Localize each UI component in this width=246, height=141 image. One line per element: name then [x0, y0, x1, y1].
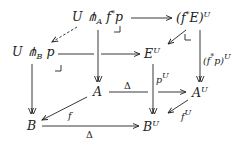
node-A-U: AU [192, 86, 208, 100]
node-U-pitchfork-A-fstar-p: U ⋔A f*p [72, 10, 123, 26]
label-fstarp-U: (f*p)U [203, 53, 231, 66]
node-U-pitchfork-B-p: U ⋔B p [12, 46, 54, 61]
pullback-corner-1 [114, 26, 120, 32]
node-B: B [27, 120, 36, 133]
label-f: f [68, 111, 72, 121]
arrow-top-right-diagonal [168, 30, 186, 44]
arrow-dashed-diagonal [52, 27, 77, 42]
label-p-U: pU [156, 72, 169, 85]
node-A: A [93, 86, 102, 99]
arrow-f [42, 97, 87, 120]
pullback-corner-2 [55, 65, 61, 71]
node-E-U: EU [144, 47, 160, 61]
pullback-corner-3 [185, 34, 191, 40]
label-delta-bottom: Δ [86, 130, 93, 140]
label-delta-top: Δ [124, 81, 131, 91]
node-B-U: BU [143, 120, 159, 134]
label-f-U: fU [181, 109, 191, 122]
node-fstarE-U: (f*E)U [176, 11, 210, 25]
